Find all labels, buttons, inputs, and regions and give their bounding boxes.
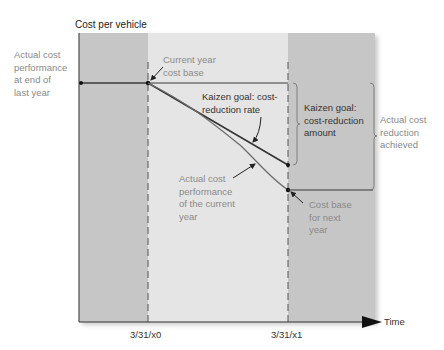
x-axis-title: Time	[384, 316, 405, 329]
label-actual-reduction: Actual cost reduction achieved	[380, 114, 426, 152]
label-prior-performance: Actual cost performance at end of last y…	[14, 49, 67, 99]
label-kaizen-amount: Kaizen goal: cost-reduction amount	[304, 102, 364, 140]
label-current-base: Current year cost base	[163, 54, 216, 79]
y-axis-title: Cost per vehicle	[75, 19, 147, 30]
label-next-base: Cost base for next year	[309, 199, 352, 237]
x-tick-x1: 3/31/x1	[271, 329, 302, 342]
x-tick-x0: 3/31/x0	[130, 329, 161, 342]
label-actual-performance: Actual cost performance of the current y…	[179, 173, 235, 223]
label-kaizen-rate: Kaizen goal: cost- reduction rate	[202, 91, 278, 116]
